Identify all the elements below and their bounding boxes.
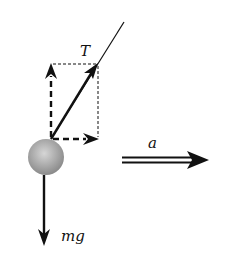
free-body-diagram: T mg a (0, 0, 226, 256)
tension-label: T (80, 42, 91, 60)
tension-vertical-component (45, 63, 57, 137)
weight-label: mg (61, 227, 85, 245)
arrowhead-tension-icon (84, 63, 98, 79)
acceleration-vector (122, 151, 209, 169)
arrowhead-acceleration-icon (187, 151, 209, 169)
weight-vector (38, 175, 50, 246)
acceleration-label: a (148, 134, 157, 152)
ball (28, 139, 64, 175)
tension-horizontal-component (53, 133, 99, 145)
tension-vector (51, 63, 98, 139)
